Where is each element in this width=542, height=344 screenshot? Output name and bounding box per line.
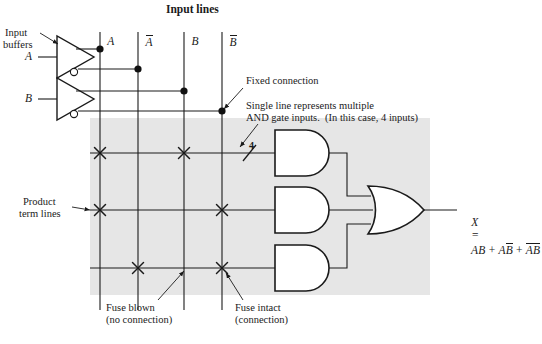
and-gate-1	[275, 130, 329, 176]
output-lhs: X	[471, 216, 478, 228]
output-equals: =	[471, 229, 479, 241]
product-term-label-line2: term lines	[19, 208, 61, 220]
column-header-A-not-text: A	[146, 35, 153, 48]
column-header-B-not: B	[218, 21, 237, 63]
output-plus: +	[486, 244, 499, 256]
fixed-connection-note: Fixed connection	[246, 75, 319, 87]
output-term: AB	[498, 244, 512, 256]
output-term: AB	[526, 244, 540, 256]
column-header-B: B	[180, 21, 199, 62]
fuse-blown-note-line2: (no connection)	[106, 314, 172, 326]
output-variable: A	[526, 243, 533, 256]
input-buffers-label-line1: Input	[5, 27, 27, 39]
column-header-B-text: B	[192, 35, 199, 47]
multi-input-note-line1: Single line represents multiple	[246, 100, 374, 112]
output-term: AB	[471, 244, 485, 256]
fixed-connection-dot	[180, 87, 187, 94]
pal-logic-diagram: Input lines Input buffers A B A A B B Pr…	[0, 0, 542, 344]
output-plus: +	[513, 244, 526, 256]
column-header-A-not: A	[134, 21, 153, 63]
output-variable: A	[498, 244, 505, 256]
bus-width-label: 4	[249, 140, 254, 152]
input-buffer-a	[38, 36, 94, 78]
input-signal-b-label: B	[25, 92, 32, 106]
multi-input-note-line2: AND gate inputs. (In this case, 4 inputs…	[246, 112, 418, 124]
fuse-intact-note-line1: Fuse intact	[235, 302, 281, 314]
column-header-A: A	[96, 21, 114, 62]
and-gate-3	[275, 245, 329, 291]
input-buffer-b	[38, 78, 94, 120]
input-signal-a-label: A	[25, 50, 32, 64]
column-header-A-text: A	[107, 35, 114, 47]
fixed-connection-dots	[96, 45, 225, 114]
fixed-connection-dot	[134, 65, 141, 72]
output-variable: B	[506, 243, 513, 256]
diagram-title: Input lines	[166, 3, 219, 17]
output-expression: X = AB + AB + AB	[459, 202, 540, 271]
output-variable: B	[478, 244, 485, 256]
fuse-intact-note-line2: (connection)	[235, 314, 288, 326]
leader-fixed-connection	[224, 88, 243, 109]
leader-input-buffers	[40, 33, 58, 44]
product-term-label-line1: Product	[23, 196, 56, 208]
output-terms: AB + AB + AB	[471, 244, 540, 256]
and-gates	[275, 130, 329, 291]
column-header-B-not-text: B	[230, 35, 237, 48]
leader-product-terms	[72, 207, 90, 210]
fuse-blown-note-line1: Fuse blown	[106, 302, 155, 314]
output-variable: B	[533, 243, 540, 256]
and-gate-2	[275, 187, 329, 233]
diagram-canvas	[0, 0, 542, 344]
